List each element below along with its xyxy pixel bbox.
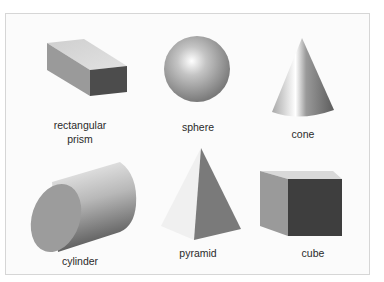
sphere-shape <box>164 36 230 102</box>
label-cone: cone <box>280 127 326 141</box>
pyramid-shape <box>161 148 241 240</box>
label-rectangular-prism: rectangular prism <box>40 118 120 146</box>
label-pyramid: pyramid <box>170 246 226 260</box>
label-sphere: sphere <box>170 120 226 134</box>
cylinder-shape <box>22 162 136 259</box>
label-cube: cube <box>290 246 336 260</box>
rectangular-prism-shape <box>47 39 127 96</box>
cone-shape <box>272 38 334 117</box>
cube-shape <box>260 171 342 236</box>
label-cylinder: cylinder <box>50 254 110 268</box>
